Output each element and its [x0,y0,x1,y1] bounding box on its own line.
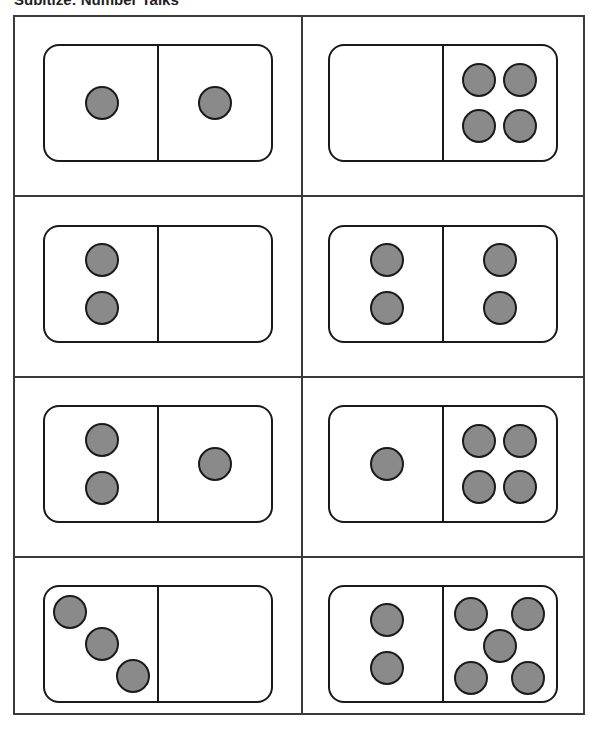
domino-card-grid [13,15,585,715]
pip-dot-icon [370,603,404,637]
domino-half-left [45,587,158,701]
pip-dot-icon [483,243,517,277]
pip-dot-icon [370,651,404,685]
pip-dot-icon [511,661,545,695]
pip-dot-icon [85,627,119,661]
pip-dot-icon [198,447,232,481]
pip-dot-icon [483,291,517,325]
domino-half-left [45,46,158,160]
pip-dot-icon [483,629,517,663]
domino-half-left [330,227,443,341]
domino-card [43,405,273,523]
domino-card [328,225,558,343]
pip-dot-icon [503,63,537,97]
pip-dot-icon [85,86,119,120]
pip-dot-icon [85,471,119,505]
grid-divider-row-3 [15,556,583,558]
pip-dot-icon [85,291,119,325]
domino-card [328,44,558,162]
domino-half-right [443,407,556,521]
pip-dot-icon [454,661,488,695]
domino-card [43,44,273,162]
domino-half-right [443,587,556,701]
pip-dot-icon [116,659,150,693]
pip-dot-icon [503,109,537,143]
domino-half-right [443,227,556,341]
domino-half-right [158,227,271,341]
grid-divider-vertical [301,17,303,713]
domino-half-left [330,46,443,160]
pip-dot-icon [370,447,404,481]
domino-half-left [330,587,443,701]
domino-half-left [330,407,443,521]
page-title: Subitize: Number Talks [14,0,179,8]
grid-divider-row-1 [15,195,583,197]
pip-dot-icon [462,470,496,504]
pip-dot-icon [462,109,496,143]
pip-dot-icon [85,423,119,457]
domino-card [328,405,558,523]
pip-dot-icon [462,63,496,97]
domino-half-right [158,46,271,160]
domino-half-left [45,407,158,521]
domino-half-left [45,227,158,341]
domino-half-right [158,407,271,521]
pip-dot-icon [53,595,87,629]
domino-card [43,585,273,703]
grid-divider-row-2 [15,376,583,378]
pip-dot-icon [462,424,496,458]
domino-card [43,225,273,343]
pip-dot-icon [370,291,404,325]
pip-dot-icon [85,243,119,277]
domino-half-right [158,587,271,701]
domino-card [328,585,558,703]
pip-dot-icon [454,597,488,631]
pip-dot-icon [503,470,537,504]
domino-half-right [443,46,556,160]
pip-dot-icon [370,243,404,277]
pip-dot-icon [503,424,537,458]
pip-dot-icon [198,86,232,120]
pip-dot-icon [511,597,545,631]
